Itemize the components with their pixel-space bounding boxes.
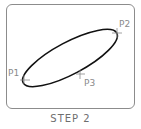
point-p3-label: P3 (84, 78, 95, 88)
point-p2-label: P2 (119, 19, 130, 29)
step-caption: STEP 2 (0, 113, 141, 124)
point-p1-label: P1 (8, 68, 19, 78)
ellipse-shape (16, 19, 125, 97)
ellipse-diagram: P1 P2 P3 (0, 0, 141, 129)
point-p1-marker (20, 75, 30, 84)
